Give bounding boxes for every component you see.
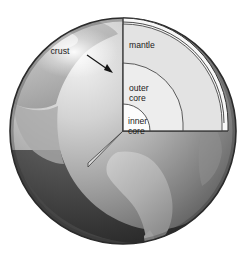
label-crust: crust — [50, 46, 70, 56]
label-inner-core-line2: core — [128, 126, 145, 136]
earth-structure-diagram: crust mantle outer core inner core — [0, 0, 250, 260]
label-outer-core-line1: outer — [129, 83, 149, 93]
label-inner-core-line1: inner — [128, 116, 147, 126]
earth-cutaway-illustration: crust mantle outer core inner core — [0, 0, 250, 260]
label-outer-core-line2: core — [129, 93, 146, 103]
label-mantle: mantle — [129, 40, 155, 50]
